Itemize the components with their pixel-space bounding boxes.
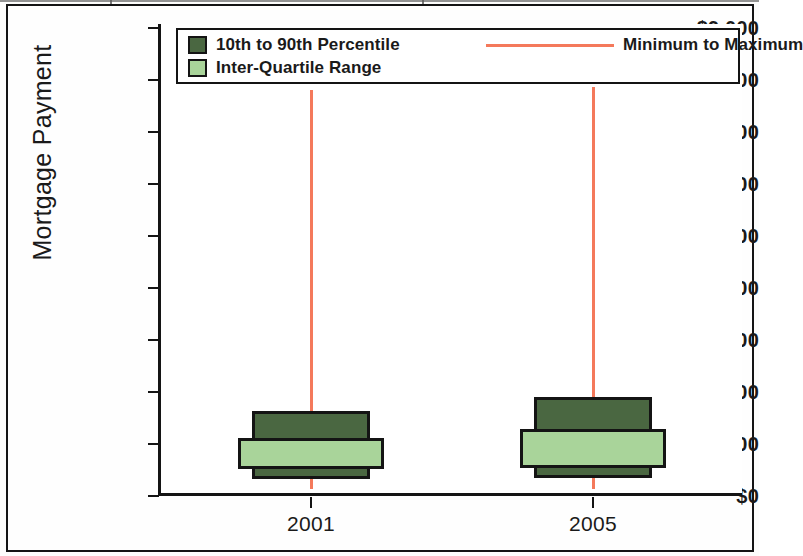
legend-swatch-10th-to-90th-percentile-icon xyxy=(188,36,207,54)
legend-label-minmax: Minimum to Maximum xyxy=(623,35,803,55)
box-inter-quartile-range xyxy=(238,438,384,469)
legend-entry-iqr: Inter-Quartile Range xyxy=(188,58,381,78)
legend-entry-percentile: 10th to 90th Percentile xyxy=(188,35,400,55)
legend-entry-minmax: Minimum to Maximum xyxy=(486,35,803,55)
x-axis-tick xyxy=(592,497,594,508)
legend-label-percentile: 10th to 90th Percentile xyxy=(216,35,400,55)
x-axis-tick-label: 2005 xyxy=(523,512,663,536)
plot-area xyxy=(158,24,742,496)
legend-line-minimum-to-maximum-icon xyxy=(486,44,614,47)
legend-swatch-inter-quartile-range-icon xyxy=(188,59,207,77)
chart-legend: 10th to 90th Percentile Inter-Quartile R… xyxy=(176,28,740,84)
x-axis-tick xyxy=(310,497,312,508)
x-axis-tick-label: 2001 xyxy=(241,512,381,536)
page-top-rule xyxy=(0,0,759,2)
box-inter-quartile-range xyxy=(520,429,666,467)
y-axis-title: Mortgage Payment xyxy=(28,23,57,283)
legend-label-iqr: Inter-Quartile Range xyxy=(216,58,381,78)
